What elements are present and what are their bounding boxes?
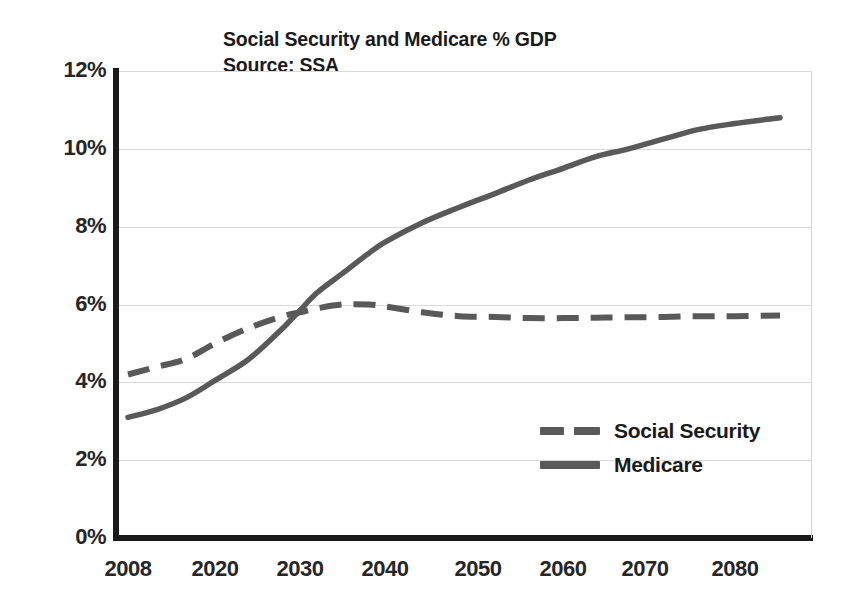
- chart-legend: Social Security Medicare: [540, 414, 790, 482]
- legend-item-social-security: Social Security: [540, 414, 790, 448]
- legend-label-social-security: Social Security: [614, 419, 760, 443]
- chart-container: Social Security and Medicare % GDP Sourc…: [0, 0, 853, 613]
- legend-label-medicare: Medicare: [614, 453, 703, 477]
- legend-item-medicare: Medicare: [540, 448, 790, 482]
- series-layer: [0, 0, 853, 613]
- legend-swatch-dashed-icon: [540, 427, 600, 435]
- legend-swatch-solid-icon: [540, 461, 600, 469]
- series-line-social-security: [128, 304, 780, 374]
- series-line-medicare: [128, 118, 780, 418]
